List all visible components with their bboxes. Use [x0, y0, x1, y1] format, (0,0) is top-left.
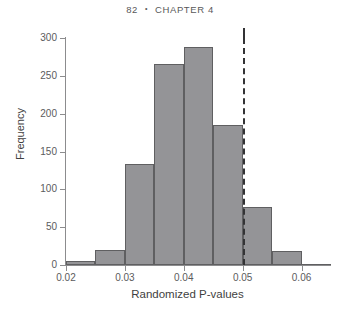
figure-page: 82•CHAPTER 4 050100150200250300 0.020.03…: [0, 0, 340, 313]
y-axis-tick: [60, 265, 65, 266]
y-axis-tick: [60, 38, 65, 39]
y-axis-tick-labels: 050100150200250300: [0, 0, 57, 313]
x-axis-tick: [243, 266, 244, 271]
x-axis-tick-label: 0.05: [218, 272, 268, 283]
threshold-reference-line-extension: [243, 28, 245, 38]
y-axis-tick-label: 100: [3, 184, 57, 194]
y-axis-tick-label: 300: [3, 33, 57, 43]
histogram-bar: [302, 264, 331, 266]
histogram-bar: [272, 251, 301, 265]
histogram-bar: [243, 207, 272, 265]
y-axis-tick: [60, 114, 65, 115]
y-axis-tick-label: 200: [3, 109, 57, 119]
y-axis-tick: [60, 227, 65, 228]
x-axis-tick-label: 0.06: [277, 272, 327, 283]
x-axis-tick: [184, 266, 185, 271]
histogram-bar: [184, 47, 213, 265]
y-axis-tick: [60, 189, 65, 190]
x-axis-tick: [66, 266, 67, 271]
x-axis-tick-label: 0.02: [41, 272, 91, 283]
histogram-bar: [213, 125, 242, 265]
plot-area: [66, 38, 331, 265]
y-axis-tick: [60, 76, 65, 77]
x-axis-tick: [302, 266, 303, 271]
y-axis-tick-label: 0: [3, 260, 57, 270]
histogram-figure: 050100150200250300 0.020.030.040.050.06 …: [0, 0, 340, 313]
y-axis-tick: [60, 152, 65, 153]
y-axis-tick-label: 250: [3, 71, 57, 81]
threshold-reference-line: [243, 38, 245, 265]
histogram-bar: [66, 261, 95, 265]
y-axis-tick-label: 150: [3, 147, 57, 157]
histogram-bar: [125, 164, 154, 265]
x-axis-tick-label: 0.03: [100, 272, 150, 283]
y-axis-tick-label: 50: [3, 222, 57, 232]
x-axis-tick: [125, 266, 126, 271]
x-axis-title: Randomized P-values: [45, 288, 330, 300]
x-axis-line: [65, 265, 331, 266]
histogram-bar: [95, 250, 124, 265]
histogram-bar: [154, 64, 183, 265]
y-axis-title: Frequency: [14, 74, 26, 194]
x-axis-tick-label: 0.04: [159, 272, 209, 283]
